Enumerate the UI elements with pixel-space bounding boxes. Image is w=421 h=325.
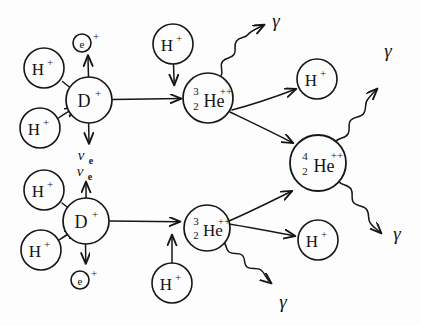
helium3-charge: ++: [220, 85, 232, 97]
proton-charge: +: [47, 56, 53, 68]
proton-charge: +: [321, 228, 327, 240]
neutrino-subscript: e: [88, 171, 93, 182]
node-deuteron-bottom[interactable]: D +: [63, 198, 109, 244]
positron-label: e: [78, 275, 83, 287]
deuteron-label: D: [75, 212, 88, 232]
arrow-deuteron-to-positron-top: [88, 56, 89, 77]
node-proton-output-top[interactable]: H +: [297, 59, 337, 99]
node-proton-output-bottom[interactable]: H +: [298, 220, 338, 260]
arrow-proton3-to-helium3-top: [174, 65, 175, 86]
helium3-charge: ++: [218, 215, 230, 227]
particle-layer: e + ν e ν e e + γ γ γ γ: [71, 10, 401, 312]
wavy-helium4-to-gamma-upper-right: [335, 89, 377, 142]
particle-positron-bottom: e +: [71, 267, 97, 289]
wavy-helium3-to-gamma-top: [221, 25, 264, 76]
deuteron-charge: +: [95, 87, 101, 99]
particle-positron-top: e +: [73, 30, 99, 52]
helium3-atomic-number: 2: [193, 229, 199, 241]
proton-charge: +: [176, 32, 182, 44]
neutrino-symbol: ν: [78, 147, 85, 163]
node-proton-top-3[interactable]: H +: [153, 24, 193, 64]
neutrino-subscript: e: [89, 155, 94, 166]
gamma-symbol-upper-right: γ: [384, 40, 392, 61]
helium3-mass-number: 3: [193, 215, 199, 227]
node-proton-top-2[interactable]: H +: [20, 108, 60, 148]
proton-charge: +: [175, 271, 181, 283]
node-layer: H + H + D + H +: [20, 24, 346, 303]
node-proton-bottom-1[interactable]: H +: [24, 170, 64, 210]
gamma-symbol-lower-right: γ: [393, 223, 401, 244]
arrow-helium3-to-proton-out-bottom: [229, 224, 295, 236]
diagram-canvas: H + H + D + H +: [0, 0, 421, 325]
deuteron-label: D: [78, 91, 91, 111]
proton-proton-chain-diagram: H + H + D + H +: [0, 0, 421, 325]
node-proton-bottom-2[interactable]: H +: [21, 230, 61, 270]
proton-charge: +: [43, 116, 49, 128]
helium3-atomic-number: 2: [193, 100, 199, 112]
helium3-mass-number: 3: [193, 85, 199, 97]
positron-charge: +: [91, 267, 97, 279]
helium4-mass-number: 4: [302, 150, 308, 162]
proton-label: H: [161, 36, 173, 55]
gamma-symbol-top: γ: [272, 10, 280, 31]
proton-label: H: [28, 120, 40, 139]
arrow-helium3-bottom-to-helium4: [229, 191, 292, 221]
positron-charge: +: [93, 30, 99, 42]
proton-label: H: [160, 275, 172, 294]
gamma-symbol-bottom: γ: [279, 291, 287, 312]
deuteron-charge: +: [92, 208, 98, 220]
proton-label: H: [29, 242, 41, 261]
node-helium4[interactable]: 4 2 He ++: [290, 135, 346, 191]
proton-label: H: [32, 182, 44, 201]
positron-label: e: [80, 38, 85, 50]
proton-label: H: [32, 60, 44, 79]
proton-charge: +: [47, 178, 53, 190]
proton-charge: +: [320, 67, 326, 79]
arrow-helium3-to-proton-out-top: [232, 89, 296, 110]
node-proton-top-1[interactable]: H +: [24, 48, 64, 88]
helium4-atomic-number: 2: [302, 165, 308, 177]
node-deuteron-top[interactable]: D +: [66, 77, 112, 123]
wavy-helium3-to-gamma-bottom: [222, 240, 271, 283]
wavy-helium4-to-gamma-lower-right: [338, 181, 381, 233]
proton-charge: +: [44, 238, 50, 250]
node-helium3-top[interactable]: 3 2 He ++: [183, 73, 233, 123]
arrow-deuteron-to-helium3-top: [113, 99, 182, 100]
arrow-helium3-top-to-helium4: [230, 112, 293, 143]
proton-label: H: [306, 232, 318, 251]
helium4-charge: ++: [331, 149, 343, 161]
node-proton-bottom-3[interactable]: H +: [152, 263, 192, 303]
neutrino-symbol: ν: [77, 163, 84, 179]
arrow-deuteron-to-helium3-bottom: [110, 221, 180, 222]
node-helium3-bottom[interactable]: 3 2 He ++: [184, 205, 230, 251]
proton-label: H: [305, 71, 317, 90]
